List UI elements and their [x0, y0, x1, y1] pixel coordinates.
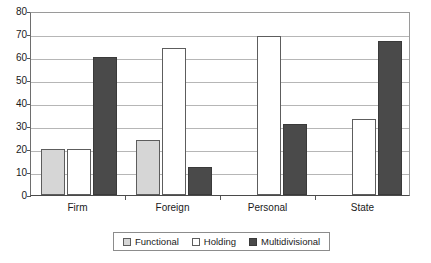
y-axis-tick-label: 20 [3, 145, 27, 155]
bar-personal-holding[interactable] [257, 36, 281, 195]
bar-personal-multidivisional[interactable] [283, 124, 307, 195]
x-axis-tick-label-personal: Personal [248, 202, 287, 213]
y-axis-tick-label: 50 [3, 76, 27, 86]
bar-firm-multidivisional[interactable] [93, 57, 117, 195]
legend-swatch-functional-icon [123, 238, 131, 246]
x-axis: FirmForeignPersonalState [30, 196, 410, 218]
y-axis-tick-label: 40 [3, 99, 27, 109]
x-axis-tick-label-foreign: Foreign [156, 202, 190, 213]
bar-group [316, 13, 411, 195]
legend-item-holding[interactable]: Holding [192, 237, 236, 247]
bar-group [126, 13, 221, 195]
x-axis-tick-mark [220, 196, 221, 200]
legend-label: Holding [204, 237, 236, 247]
y-axis: 01020304050607080 [0, 0, 27, 263]
x-axis-tick-mark [125, 196, 126, 200]
legend-label: Functional [135, 237, 179, 247]
y-axis-tick-label: 60 [3, 53, 27, 63]
bar-state-holding[interactable] [352, 119, 376, 195]
y-axis-tick-label: 80 [3, 7, 27, 17]
plot-area [30, 12, 410, 196]
bar-foreign-multidivisional[interactable] [188, 167, 212, 195]
y-axis-tick-label: 70 [3, 30, 27, 40]
bar-group [31, 13, 126, 195]
legend-swatch-holding-icon [192, 238, 200, 246]
legend-item-functional[interactable]: Functional [123, 237, 179, 247]
bar-foreign-functional[interactable] [136, 140, 160, 195]
bar-state-multidivisional[interactable] [378, 41, 402, 195]
x-axis-tick-mark [315, 196, 316, 200]
legend-label: Multidivisional [261, 237, 320, 247]
x-axis-tick-label-state: State [351, 202, 374, 213]
bar-chart: 01020304050607080 FirmForeignPersonalSta… [0, 0, 431, 263]
y-axis-tick-label: 10 [3, 168, 27, 178]
legend-swatch-multidivisional-icon [249, 238, 257, 246]
bar-firm-functional[interactable] [41, 149, 65, 195]
legend-item-multidivisional[interactable]: Multidivisional [249, 237, 320, 247]
y-axis-tick-label: 0 [3, 191, 27, 201]
y-axis-tick-label: 30 [3, 122, 27, 132]
x-axis-tick-label-firm: Firm [68, 202, 88, 213]
chart-legend: FunctionalHoldingMultidivisional [113, 232, 330, 251]
bar-foreign-holding[interactable] [162, 48, 186, 195]
bar-group [221, 13, 316, 195]
bar-firm-holding[interactable] [67, 149, 91, 195]
